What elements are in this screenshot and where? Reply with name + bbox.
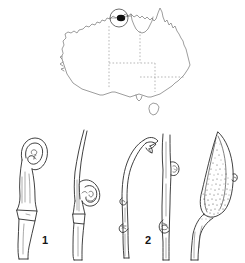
australia-coastline	[62, 8, 190, 97]
figure-1-label: 1	[42, 235, 48, 246]
figure-2: 2	[58, 122, 118, 263]
figure-1: 1	[6, 122, 64, 263]
australia-distribution-map	[0, 0, 245, 122]
labellum-claw	[191, 214, 204, 260]
tasmania-outline	[149, 103, 159, 115]
figure-4: 4	[183, 122, 243, 263]
figure-4-drawing	[183, 122, 243, 263]
south-coast-detail	[136, 95, 142, 101]
illustration-plate: 1	[0, 0, 245, 263]
figure-row: 1	[0, 122, 245, 263]
figure-1-drawing	[6, 122, 64, 263]
locality-dot-icon	[117, 15, 125, 21]
map-svg	[0, 0, 245, 122]
figure-2-drawing	[58, 122, 118, 263]
